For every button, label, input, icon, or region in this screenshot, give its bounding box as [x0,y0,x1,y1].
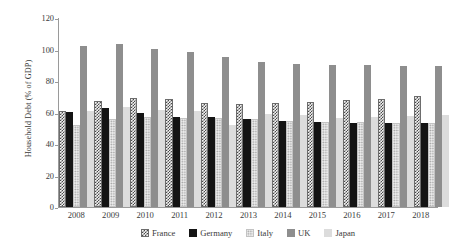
bar-uk-2014 [293,64,300,207]
bar-germany-2018 [421,123,428,207]
x-tick-label-2017: 2017 [369,210,403,220]
bar-france-2018 [414,96,421,207]
bar-france-2013 [236,104,243,207]
y-axis-title: Household Debt (% of GDP) [24,19,33,199]
legend-label-japan: Japan [335,228,355,238]
legend-label-italy: Italy [257,228,273,238]
bar-italy-2008 [73,125,80,207]
bar-france-2012 [201,103,208,207]
legend-item-uk[interactable]: UK [287,228,310,238]
y-tick-mark-120 [55,19,58,20]
bar-japan-2010 [158,110,165,207]
x-tick-label-2008: 2008 [59,210,93,220]
bar-italy-2018 [428,123,435,207]
bar-japan-2009 [123,107,130,207]
bar-japan-2015 [336,118,343,207]
legend-label-uk: UK [298,228,310,238]
bar-france-2017 [378,99,385,207]
x-tick-label-2012: 2012 [197,210,231,220]
bar-germany-2013 [243,119,250,207]
bar-germany-2017 [385,123,392,207]
y-tick-mark-100 [55,51,58,52]
bar-uk-2018 [435,66,442,207]
bar-uk-2017 [400,66,407,207]
x-tick-label-2016: 2016 [335,210,369,220]
bar-group-2008 [59,18,94,207]
y-tick-label-120: 120 [41,14,54,23]
bar-italy-2014 [286,121,293,207]
bar-japan-2013 [265,114,272,207]
bar-germany-2014 [279,121,286,207]
bar-uk-2008 [80,46,87,207]
bar-france-2008 [59,111,66,207]
x-axis-labels: 2008200920102011201220132014201520162017… [59,210,438,220]
bar-uk-2010 [151,49,158,207]
x-tick-label-2015: 2015 [300,210,334,220]
bar-germany-2009 [102,108,109,207]
bar-japan-2016 [371,117,378,207]
y-tick-label-0: 0 [50,203,54,212]
legend-item-italy[interactable]: Italy [246,228,273,238]
y-tick-mark-60 [55,114,58,115]
bar-japan-2014 [300,115,307,207]
bar-italy-2011 [180,118,187,207]
bar-japan-2018 [442,115,449,207]
y-tick-label-20: 20 [46,172,54,181]
legend-swatch-japan-icon [324,229,332,237]
bar-germany-2016 [350,123,357,207]
bar-france-2016 [343,100,350,207]
bar-italy-2015 [321,122,328,207]
bar-group-2016 [343,18,378,207]
bar-groups [59,18,438,207]
x-tick-label-2014: 2014 [266,210,300,220]
bar-group-2015 [307,18,342,207]
bar-uk-2009 [116,44,123,207]
y-tick-label-100: 100 [41,46,54,55]
bar-germany-2015 [314,122,321,207]
legend-swatch-france-icon [141,229,149,237]
bar-germany-2011 [173,117,180,207]
legend-item-japan[interactable]: Japan [324,228,355,238]
legend-swatch-italy-icon [246,229,254,237]
bar-group-2010 [130,18,165,207]
y-tick-mark-20 [55,177,58,178]
bar-italy-2017 [392,123,399,207]
y-tick-label-80: 80 [46,77,54,86]
bar-uk-2013 [258,62,265,207]
bar-italy-2016 [357,122,364,207]
bar-germany-2012 [208,117,215,207]
bar-japan-2011 [194,111,201,207]
bar-france-2011 [165,99,172,207]
legend-label-france: France [152,228,175,238]
legend-swatch-germany-icon [189,229,197,237]
bar-france-2010 [130,98,137,207]
x-axis-line [58,207,438,208]
bar-group-2013 [236,18,271,207]
legend-item-germany[interactable]: Germany [189,228,232,238]
y-tick-mark-0 [55,208,58,209]
bar-uk-2015 [329,65,336,207]
bar-italy-2009 [109,119,116,207]
bar-uk-2016 [364,65,371,207]
x-tick-label-2018: 2018 [404,210,438,220]
bar-italy-2012 [215,118,222,207]
bar-group-2009 [94,18,129,207]
legend-item-france[interactable]: France [141,228,175,238]
y-tick-mark-80 [55,82,58,83]
bar-group-2014 [272,18,307,207]
bar-japan-2017 [407,116,414,207]
plot-area: 020406080100120 [58,18,438,208]
bar-germany-2008 [66,112,73,207]
bar-uk-2011 [187,52,194,207]
bar-group-2011 [165,18,200,207]
bar-group-2012 [201,18,236,207]
bar-group-2018 [414,18,449,207]
bar-japan-2012 [229,125,236,207]
bar-germany-2010 [137,113,144,207]
y-tick-label-40: 40 [46,140,54,149]
y-tick-label-60: 60 [46,109,54,118]
bar-group-2017 [378,18,413,207]
bar-uk-2012 [222,57,229,207]
chart-legend: FranceGermanyItalyUKJapan [58,228,438,238]
